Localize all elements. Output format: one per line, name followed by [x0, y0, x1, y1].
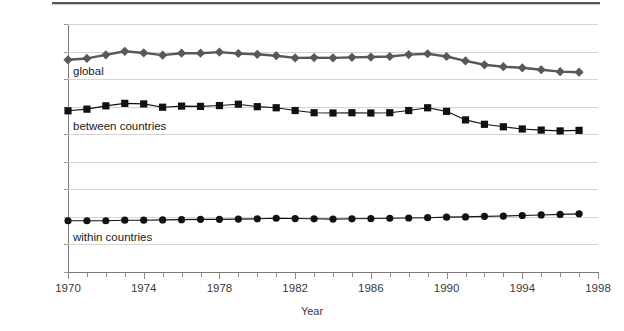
x-tick-label: 1994 — [509, 283, 535, 295]
x-tick-label: 1978 — [207, 283, 233, 295]
data-point-marker — [82, 54, 91, 63]
data-point-marker — [367, 215, 374, 222]
data-point-marker — [574, 68, 583, 77]
data-point-marker — [519, 125, 526, 132]
data-point-marker — [234, 49, 243, 58]
x-tick-label: 1982 — [282, 283, 308, 295]
x-tick-mark — [276, 273, 277, 277]
data-point-marker — [64, 217, 71, 224]
data-point-marker — [216, 216, 223, 223]
data-point-marker — [557, 211, 564, 218]
data-point-marker — [197, 216, 204, 223]
data-point-marker — [518, 63, 527, 72]
x-tick-mark — [314, 273, 315, 277]
data-point-marker — [424, 214, 431, 221]
data-point-marker — [158, 51, 167, 60]
data-point-marker — [405, 107, 412, 114]
data-point-marker — [273, 104, 280, 111]
x-tick-mark — [598, 273, 599, 279]
data-point-marker — [309, 53, 318, 62]
data-point-marker — [443, 214, 450, 221]
data-point-marker — [386, 109, 393, 116]
data-point-marker — [254, 103, 261, 110]
x-tick-label: 1970 — [55, 283, 81, 295]
x-tick-mark — [201, 273, 202, 277]
data-point-marker — [310, 215, 317, 222]
data-point-marker — [481, 121, 488, 128]
data-point-marker — [329, 215, 336, 222]
data-point-marker — [329, 109, 336, 116]
data-point-marker — [292, 107, 299, 114]
series-within-countries — [64, 210, 582, 224]
x-tick-label: 1986 — [358, 283, 384, 295]
x-tick-label: 1974 — [131, 283, 157, 295]
data-point-marker — [537, 65, 546, 74]
data-point-marker — [83, 217, 90, 224]
x-tick-mark — [219, 273, 220, 279]
x-tick-mark — [106, 273, 107, 277]
data-point-marker — [405, 214, 412, 221]
data-point-marker — [348, 215, 355, 222]
x-tick-mark — [295, 273, 296, 279]
data-point-marker — [102, 217, 109, 224]
data-point-marker — [424, 104, 431, 111]
data-point-marker — [519, 212, 526, 219]
data-point-marker — [197, 103, 204, 110]
x-tick-mark — [428, 273, 429, 277]
data-point-marker — [159, 104, 166, 111]
x-tick-mark — [125, 273, 126, 277]
data-point-marker — [235, 215, 242, 222]
series-label-between-countries: between countries — [72, 121, 167, 133]
data-point-marker — [556, 67, 565, 76]
x-tick-mark — [409, 273, 410, 277]
data-point-marker — [101, 50, 110, 59]
data-point-marker — [404, 50, 413, 59]
data-point-marker — [499, 62, 508, 71]
series-global — [63, 47, 583, 77]
data-point-marker — [177, 49, 186, 58]
data-point-marker — [140, 100, 147, 107]
data-point-marker — [215, 48, 224, 57]
x-axis-title: Year — [0, 305, 624, 317]
data-point-marker — [64, 107, 71, 114]
data-point-marker — [443, 108, 450, 115]
data-point-marker — [272, 51, 281, 60]
data-point-marker — [121, 217, 128, 224]
x-tick-mark — [87, 273, 88, 277]
data-point-marker — [461, 56, 470, 65]
x-tick-mark — [503, 273, 504, 277]
x-tick-mark — [238, 273, 239, 277]
x-tick-mark — [560, 273, 561, 277]
data-point-marker — [538, 211, 545, 218]
series-label-within-countries: within countries — [72, 232, 153, 244]
data-point-marker — [159, 216, 166, 223]
data-point-marker — [386, 215, 393, 222]
x-tick-mark — [541, 273, 542, 277]
data-point-marker — [462, 116, 469, 123]
data-point-marker — [102, 102, 109, 109]
chart-figure: 00.10.20.30.40.50.60.70.80.9 19701974197… — [0, 0, 624, 331]
data-point-marker — [310, 109, 317, 116]
x-tick-mark — [163, 273, 164, 277]
data-point-marker — [178, 103, 185, 110]
data-point-marker — [367, 109, 374, 116]
data-point-marker — [139, 48, 148, 57]
data-point-marker — [500, 123, 507, 130]
x-tick-mark — [390, 273, 391, 277]
x-tick-mark — [466, 273, 467, 277]
data-point-marker — [140, 217, 147, 224]
x-tick-label: 1990 — [434, 283, 460, 295]
x-tick-mark — [182, 273, 183, 277]
data-point-marker — [121, 100, 128, 107]
data-point-marker — [442, 52, 451, 61]
data-point-marker — [575, 127, 582, 134]
data-point-marker — [235, 101, 242, 108]
x-tick-mark — [522, 273, 523, 279]
x-tick-mark — [352, 273, 353, 277]
x-tick-mark — [447, 273, 448, 279]
data-point-marker — [462, 213, 469, 220]
x-tick-mark — [257, 273, 258, 277]
data-point-marker — [385, 52, 394, 61]
data-point-marker — [500, 212, 507, 219]
x-tick-mark — [333, 273, 334, 277]
